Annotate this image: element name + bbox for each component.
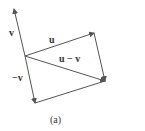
parallelogram-edge-bottom	[35, 81, 105, 103]
label-v: v	[9, 27, 14, 38]
vector-neg-v	[25, 56, 35, 103]
vector-diagram	[0, 0, 145, 131]
label-u-minus-v: u − v	[59, 53, 80, 64]
figure-caption: (a)	[50, 114, 61, 125]
label-neg-v: −v	[12, 72, 23, 83]
label-u: u	[49, 34, 55, 45]
parallelogram-edge-right	[94, 33, 105, 81]
vector-v	[14, 9, 25, 56]
